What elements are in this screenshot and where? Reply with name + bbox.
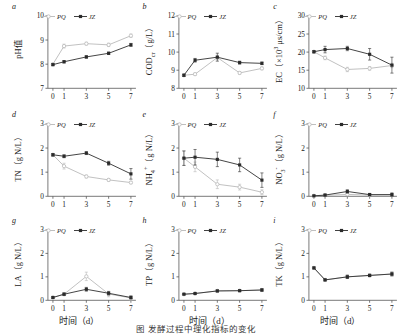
panel-letter-b: b — [143, 2, 147, 11]
legend-label-pq: PQ — [57, 13, 66, 20]
legend-marker-pq — [303, 121, 316, 128]
panel-letter-d: d — [12, 110, 16, 119]
svg-text:2: 2 — [302, 249, 306, 258]
y-axis-label-i: TK（g N/L） — [272, 226, 284, 298]
plot-area-a: 7891001357 — [34, 12, 124, 86]
series-jz-g — [51, 287, 132, 299]
svg-text:0: 0 — [40, 296, 44, 305]
legend-label-pq: PQ — [188, 227, 197, 234]
legend-label-jz: JZ — [350, 227, 357, 234]
svg-text:0: 0 — [312, 92, 316, 101]
panel-letter-c: c — [273, 2, 277, 11]
panel-letter-i: i — [273, 216, 275, 225]
svg-text:5: 5 — [107, 92, 111, 101]
legend-label-jz: JZ — [89, 121, 96, 128]
plot-area-b: 8910111201357 — [165, 12, 255, 86]
legend-marker-pq — [173, 13, 186, 20]
svg-text:0: 0 — [171, 296, 175, 305]
svg-text:0: 0 — [171, 192, 175, 201]
legend-marker-jz — [74, 227, 87, 234]
svg-text:0: 0 — [182, 200, 186, 209]
svg-text:3: 3 — [346, 200, 350, 209]
svg-text:3: 3 — [215, 304, 219, 313]
svg-text:5: 5 — [237, 200, 241, 209]
svg-text:0: 0 — [182, 92, 186, 101]
svg-text:3: 3 — [215, 92, 219, 101]
legend-marker-pq — [303, 227, 316, 234]
svg-text:1: 1 — [301, 168, 305, 177]
legend-f: PQJZ — [303, 121, 356, 128]
svg-text:1: 1 — [40, 272, 44, 281]
y-axis-label-f: NO3-（g N/L） — [272, 120, 286, 194]
plot-area-c: 101520253001357 — [295, 12, 385, 86]
svg-text:5: 5 — [368, 92, 372, 101]
svg-text:8: 8 — [171, 84, 175, 93]
plot-area-h: 012301357 — [165, 226, 255, 298]
legend-marker-jz — [204, 13, 217, 20]
panel-f: fNO3-（g N/L）012301357PQJZ — [261, 108, 392, 216]
panel-i: iTK（g N/L）012301357PQJZ时间（d） — [261, 216, 392, 332]
legend-label-jz: JZ — [219, 121, 226, 128]
svg-text:1: 1 — [193, 92, 197, 101]
panel-letter-f: f — [273, 110, 275, 119]
svg-text:0: 0 — [40, 192, 44, 201]
legend-marker-jz — [335, 227, 348, 234]
svg-text:1: 1 — [193, 304, 197, 313]
panel-letter-e: e — [143, 110, 147, 119]
plot-area-i: 012301357 — [295, 226, 385, 298]
svg-text:3: 3 — [85, 92, 89, 101]
svg-text:8: 8 — [40, 60, 44, 69]
legend-c: PQJZ — [303, 13, 356, 20]
series-pq-g — [51, 272, 132, 300]
legend-label-jz: JZ — [89, 13, 96, 20]
panel-h: hTP（g N/L）012301357PQJZ时间（d） — [131, 216, 262, 332]
svg-text:9: 9 — [171, 66, 175, 75]
svg-text:1: 1 — [62, 92, 66, 101]
svg-text:7: 7 — [390, 92, 394, 101]
svg-text:2: 2 — [40, 249, 44, 258]
plot-area-e: 012301357 — [165, 120, 255, 194]
legend-label-pq: PQ — [318, 227, 327, 234]
y-axis-label-h: TP（g N/L） — [142, 226, 154, 298]
legend-marker-jz — [74, 13, 87, 20]
svg-text:0: 0 — [312, 304, 316, 313]
legend-label-pq: PQ — [318, 13, 327, 20]
svg-text:1: 1 — [323, 200, 327, 209]
legend-label-pq: PQ — [57, 121, 66, 128]
svg-text:0: 0 — [51, 304, 55, 313]
svg-text:3: 3 — [85, 304, 89, 313]
series-pq-c — [312, 50, 393, 72]
svg-text:5: 5 — [107, 200, 111, 209]
legend-label-pq: PQ — [57, 227, 66, 234]
legend-marker-pq — [173, 227, 186, 234]
svg-text:3: 3 — [85, 200, 89, 209]
legend-marker-pq — [42, 13, 55, 20]
panel-b: bCODcr（g/L）8910111201357PQJZ — [131, 0, 262, 108]
svg-text:5: 5 — [368, 304, 372, 313]
svg-text:5: 5 — [368, 200, 372, 209]
legend-marker-jz — [74, 121, 87, 128]
plot-area-g: 012301357 — [34, 226, 124, 298]
panel-letter-g: g — [12, 216, 16, 225]
svg-text:0: 0 — [312, 200, 316, 209]
svg-text:1: 1 — [171, 272, 175, 281]
legend-label-pq: PQ — [188, 121, 197, 128]
legend-marker-pq — [42, 227, 55, 234]
panel-d: dTN（g N/L）012301357PQJZ — [0, 108, 131, 216]
svg-text:3: 3 — [346, 92, 350, 101]
svg-text:7: 7 — [40, 84, 44, 93]
legend-marker-jz — [335, 121, 348, 128]
legend-label-jz: JZ — [219, 13, 226, 20]
legend-label-jz: JZ — [350, 121, 357, 128]
svg-text:1: 1 — [62, 304, 66, 313]
legend-marker-pq — [42, 121, 55, 128]
svg-text:0: 0 — [301, 192, 305, 201]
plot-area-d: 012301357 — [34, 120, 124, 194]
panel-letter-h: h — [143, 216, 147, 225]
legend-label-jz: JZ — [89, 227, 96, 234]
svg-text:25: 25 — [298, 30, 306, 39]
legend-marker-pq — [173, 121, 186, 128]
series-jz-i — [313, 266, 394, 281]
legend-label-pq: PQ — [188, 13, 197, 20]
